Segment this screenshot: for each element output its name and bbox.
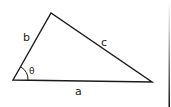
angle-arc [21,67,28,80]
right-edge-border [169,0,171,107]
triangle-diagram: b c θ a [0,0,171,107]
side-a-label: a [75,85,82,98]
side-c-label: c [101,36,107,49]
angle-theta-label: θ [29,66,35,76]
side-b-label: b [23,31,30,44]
